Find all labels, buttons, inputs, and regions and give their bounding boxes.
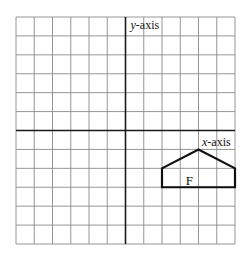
- shape-label: F: [186, 173, 193, 188]
- coordinate-grid: y-axis x-axis F: [0, 0, 246, 253]
- y-axis-label: y-axis: [130, 18, 160, 32]
- x-axis-label: x-axis: [201, 135, 231, 149]
